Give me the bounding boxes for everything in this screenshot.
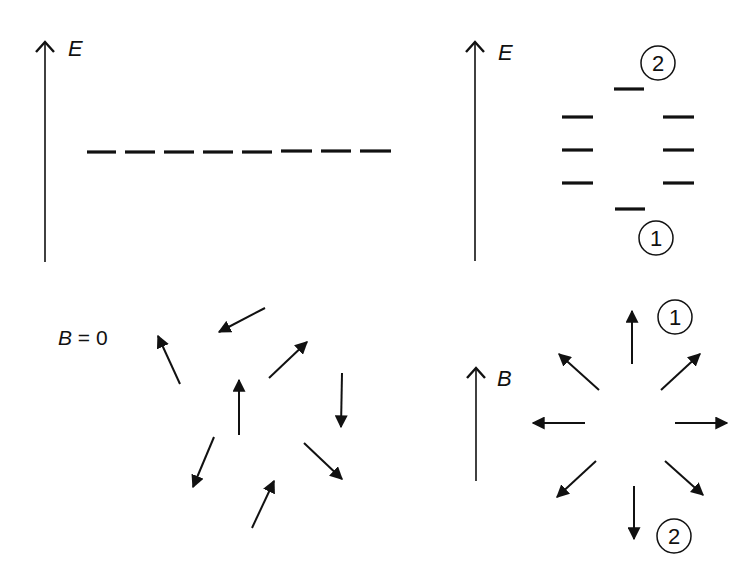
moment-arrow bbox=[252, 481, 274, 528]
diagram-canvas: E E 21 B = 0 B 12 bbox=[0, 0, 756, 583]
circled-number-text: 2 bbox=[652, 51, 664, 76]
circled-number: 1 bbox=[658, 300, 692, 334]
random-moment-arrows bbox=[158, 308, 342, 528]
moment-arrow bbox=[219, 308, 265, 332]
panel-degenerate-levels: E bbox=[36, 36, 391, 262]
moment-arrow bbox=[557, 461, 596, 497]
moment-arrow bbox=[193, 437, 214, 487]
field-axis-label: B bbox=[497, 366, 512, 391]
energy-axis bbox=[466, 42, 484, 261]
energy-axis bbox=[36, 42, 54, 262]
moment-arrow bbox=[269, 342, 307, 378]
moment-arrow bbox=[341, 373, 342, 427]
circled-number-text: 1 bbox=[669, 305, 681, 330]
circled-number: 2 bbox=[641, 46, 675, 80]
energy-axis-label: E bbox=[68, 36, 83, 61]
degenerate-level-dashes bbox=[87, 151, 391, 152]
field-variable: B bbox=[58, 326, 72, 349]
moment-arrow bbox=[665, 461, 703, 495]
moment-arrow bbox=[158, 336, 180, 384]
moment-arrow bbox=[304, 443, 342, 479]
panel-aligned-moments: B 12 bbox=[467, 300, 727, 553]
circled-number: 1 bbox=[639, 221, 673, 255]
moment-circled-labels: 12 bbox=[657, 300, 692, 553]
field-axis bbox=[467, 368, 485, 481]
energy-axis-label: E bbox=[498, 40, 513, 65]
moment-arrow bbox=[661, 354, 700, 390]
radial-moment-arrows bbox=[533, 311, 727, 539]
panel-split-levels: E 21 bbox=[466, 40, 694, 261]
split-level-lines bbox=[562, 89, 694, 209]
moment-arrow bbox=[559, 354, 599, 390]
field-zero-label: B = 0 bbox=[58, 326, 108, 349]
circled-number: 2 bbox=[657, 519, 691, 553]
field-value: = 0 bbox=[72, 326, 108, 349]
circled-number-text: 2 bbox=[668, 524, 680, 549]
circled-number-text: 1 bbox=[650, 226, 662, 251]
panel-random-moments: B = 0 bbox=[58, 308, 342, 528]
